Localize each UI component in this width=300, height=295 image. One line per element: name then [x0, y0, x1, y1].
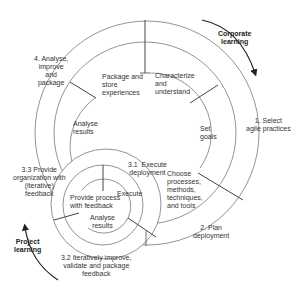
- divider-upper-left: [70, 82, 96, 98]
- corporate-project-learning-diagram: [0, 0, 300, 295]
- corporate-learning-label: Corporate learning: [218, 30, 251, 46]
- step-3-2-iteratively-improve: 3.2 Iteratively improve, validate and pa…: [61, 254, 131, 278]
- step-1-select-agile-practices: 1. Select agile practices: [246, 117, 291, 133]
- package-and-store-experiences: Package and store experiences: [102, 73, 143, 97]
- step-3-3-provide-organization-feedback: 3.3 Provide organization with (iterative…: [13, 166, 66, 198]
- project-learning-label: Project learning: [14, 238, 41, 254]
- divider-lower-right: [198, 173, 243, 200]
- choose-processes-methods-tools: Choose processes, methods, techniques, a…: [167, 170, 203, 210]
- step-3-1-execute-deployment: 3.1 Execute deployment: [128, 161, 167, 177]
- analyse-results-inner: Analyse results: [90, 214, 115, 230]
- step-4-analyse-improve-package: 4. Analyse, improve and package: [34, 55, 68, 87]
- set-goals: Set goals: [200, 125, 217, 141]
- analyse-results-outer: Analyse results: [73, 120, 98, 136]
- execute: Execute: [117, 190, 142, 198]
- characterize-and-understand: Characterize and understand: [155, 72, 195, 96]
- provide-process-with-feedback: Provide process with feedback: [70, 194, 120, 210]
- step-2-plan-deployment: 2. Plan deployment: [193, 224, 229, 240]
- corporate-learning-arrow: [202, 20, 255, 73]
